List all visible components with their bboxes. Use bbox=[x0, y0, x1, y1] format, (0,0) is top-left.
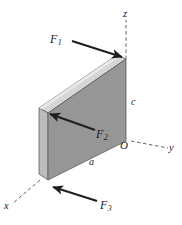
y-axis-line bbox=[131, 141, 168, 148]
force-label-F1: F1 bbox=[50, 33, 62, 47]
force-F3-arrow bbox=[53, 187, 97, 201]
force-label-F2: F2 bbox=[96, 128, 108, 142]
mechanics-diagram bbox=[0, 0, 182, 225]
force-symbol-F2: F bbox=[96, 127, 103, 141]
axis-label-z: z bbox=[123, 9, 127, 20]
force-symbol-F1: F bbox=[50, 32, 57, 46]
slab-body bbox=[39, 55, 126, 180]
origin-label-O: O bbox=[120, 140, 128, 151]
x-axis-line bbox=[12, 180, 40, 204]
force-subscript-F2: 2 bbox=[104, 133, 108, 142]
force-subscript-F3: 3 bbox=[108, 204, 112, 213]
dimension-label-a: a bbox=[89, 157, 94, 167]
axis-label-y: y bbox=[169, 143, 174, 154]
force-symbol-F3: F bbox=[100, 198, 107, 212]
force-subscript-F1: 1 bbox=[58, 38, 62, 47]
dimension-label-c: c bbox=[131, 97, 135, 107]
axis-label-x: x bbox=[4, 201, 9, 212]
slab-side-face bbox=[39, 108, 48, 180]
figure-container: F1 F2 F3 z y x O c a bbox=[0, 0, 182, 225]
force-F1-arrow bbox=[72, 41, 122, 57]
force-label-F3: F3 bbox=[100, 199, 112, 213]
